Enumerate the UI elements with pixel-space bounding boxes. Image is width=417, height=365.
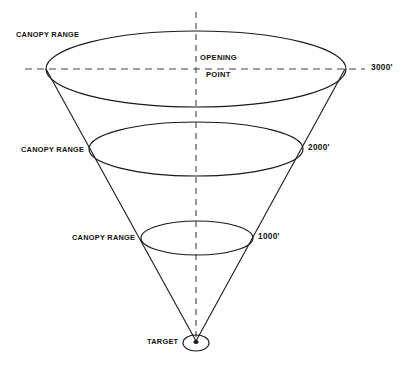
canopy-range-label-2000: CANOPY RANGE bbox=[21, 146, 84, 154]
canopy-range-diagram: CANOPY RANGE CANOPY RANGE CANOPY RANGE O… bbox=[0, 0, 417, 365]
canopy-range-label-1000: CANOPY RANGE bbox=[72, 234, 135, 242]
target-label: TARGET bbox=[147, 338, 178, 346]
canopy-range-label-3000: CANOPY RANGE bbox=[16, 31, 79, 39]
cone-left-edge-line bbox=[46, 69, 196, 341]
target-center-dot bbox=[193, 340, 198, 344]
altitude-label-3000: 3000' bbox=[371, 63, 393, 72]
altitude-label-2000: 2000' bbox=[308, 143, 330, 152]
cone-right-edge-line bbox=[196, 69, 345, 341]
altitude-label-1000: 1000' bbox=[258, 232, 280, 241]
canopy-range-ellipse-1000 bbox=[141, 221, 253, 255]
opening-point-label-line2: POINT bbox=[206, 71, 231, 79]
opening-point-label-line1: OPENING bbox=[200, 54, 237, 62]
